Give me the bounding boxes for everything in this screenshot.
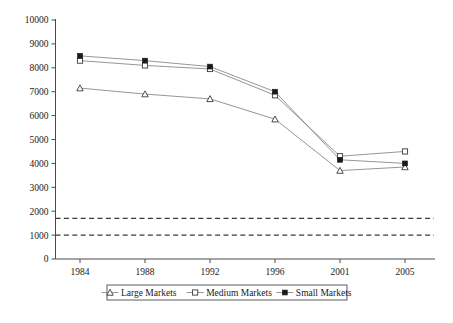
legend-marker-small-markets: [282, 290, 287, 295]
legend-label-small-markets: Small Markets: [296, 288, 352, 298]
y-axis-tick-label: 10000: [25, 15, 49, 25]
legend-label-large-markets: Large Markets: [121, 288, 177, 298]
data-point-medium-markets: [77, 58, 82, 63]
x-axis-tick-label: 2001: [331, 267, 350, 277]
x-axis-tick-label: 1988: [136, 267, 155, 277]
y-axis-tick-label: 1000: [30, 231, 49, 241]
x-axis-tick-label: 1996: [266, 267, 285, 277]
data-point-small-markets: [338, 157, 343, 162]
data-point-small-markets: [273, 89, 278, 94]
data-point-small-markets: [208, 64, 213, 69]
y-axis-tick-label: 2000: [30, 207, 49, 217]
y-axis-tick-label: 9000: [30, 39, 49, 49]
x-axis-tick-label: 1984: [71, 267, 90, 277]
data-point-small-markets: [78, 53, 83, 58]
data-point-small-markets: [403, 161, 408, 166]
series-line-medium-markets: [80, 61, 405, 157]
y-axis-tick-label: 0: [44, 254, 49, 264]
y-axis-tick-label: 4000: [30, 159, 49, 169]
y-axis-tick-label: 7000: [30, 87, 49, 97]
data-point-small-markets: [143, 58, 148, 63]
data-point-medium-markets: [142, 63, 147, 68]
y-axis-tick-label: 6000: [30, 111, 49, 121]
x-axis-tick-label: 1992: [201, 267, 220, 277]
x-axis-tick-label: 2005: [396, 267, 415, 277]
y-axis-tick-label: 8000: [30, 63, 49, 73]
series-line-large-markets: [80, 88, 405, 170]
series-line-small-markets: [80, 56, 405, 164]
data-point-medium-markets: [402, 149, 407, 154]
chart-canvas: 0100020003000400050006000700080009000100…: [0, 0, 453, 323]
y-axis-tick-label: 3000: [30, 183, 49, 193]
y-axis-tick-label: 5000: [30, 135, 49, 145]
line-chart: 0100020003000400050006000700080009000100…: [0, 0, 453, 323]
legend-marker-medium-markets: [193, 290, 198, 295]
legend-label-medium-markets: Medium Markets: [206, 288, 272, 298]
